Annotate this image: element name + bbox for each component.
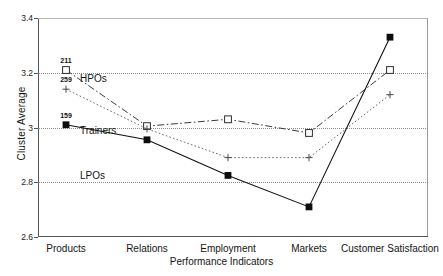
series-count-label-trainers: 259	[60, 76, 72, 83]
series-label-lpos: LPOs	[80, 170, 105, 181]
marker-open-square	[306, 130, 313, 137]
x-axis-title: Performance Indicators	[0, 256, 443, 267]
x-tick-label: Markets	[291, 243, 327, 254]
marker-open-square	[225, 116, 232, 123]
marker-open-square	[63, 67, 70, 74]
series-label-hpos: HPOs	[80, 73, 107, 84]
marker-filled-square	[387, 34, 394, 41]
y-tick-label: 2.6	[21, 232, 33, 242]
marker-plus	[305, 154, 312, 161]
x-tick-label: Employment	[200, 243, 256, 254]
series-count-label-lpos: 159	[60, 112, 72, 119]
marker-plus	[224, 154, 231, 161]
y-tick-label: 2.8	[21, 177, 33, 187]
y-tick-label: 3.4	[21, 13, 33, 23]
y-tick-label: 3	[28, 123, 33, 133]
marker-filled-square	[306, 203, 313, 210]
plot-area: 2.62.833.23.4 ProductsRelationsEmploymen…	[38, 18, 428, 237]
chart-figure: Cluster Average 2.62.833.23.4 ProductsRe…	[0, 0, 443, 276]
series-line-trainers	[66, 89, 390, 157]
marker-filled-square	[63, 121, 70, 128]
marker-plus	[62, 86, 69, 93]
series-label-trainers: Trainers	[80, 125, 116, 136]
marker-plus	[386, 91, 393, 98]
y-tick-label: 3.2	[21, 68, 33, 78]
series-count-label-hpos: 211	[60, 57, 71, 64]
marker-filled-square	[144, 136, 151, 143]
marker-filled-square	[225, 172, 232, 179]
x-tick-label: Customer Satisfaction	[341, 243, 439, 254]
y-tick-mark	[34, 237, 38, 238]
x-tick-label: Relations	[126, 243, 168, 254]
marker-open-square	[387, 67, 394, 74]
x-tick-label: Products	[46, 243, 85, 254]
series-line-hpos	[66, 70, 390, 133]
